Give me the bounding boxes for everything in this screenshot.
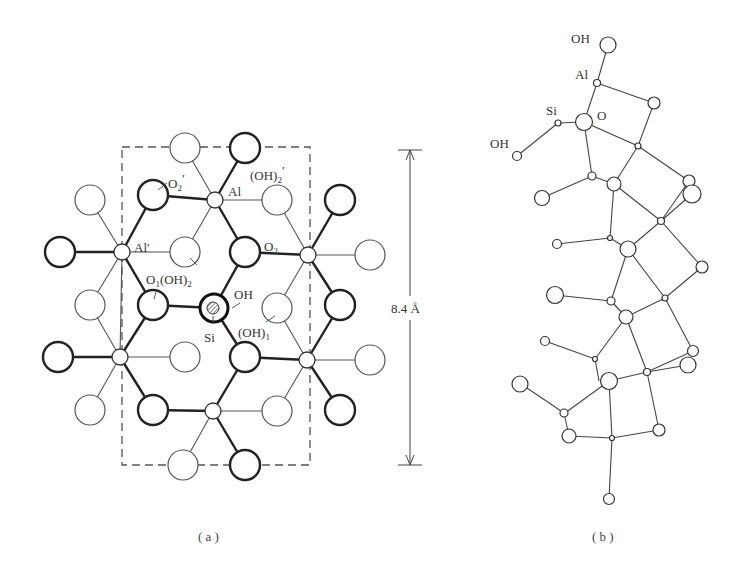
label-b-si: Si xyxy=(546,103,557,118)
panel-b: OH Al Si O OH ( b ) xyxy=(490,31,708,544)
label-oh2-prime: (OH)2′ xyxy=(250,163,285,185)
label-al-prime: Al′ xyxy=(134,240,150,255)
label-o2: O2 xyxy=(264,239,278,256)
dimension-label: 8.4 Å xyxy=(391,301,421,316)
label-si: Si xyxy=(204,330,215,345)
label-b-o: O xyxy=(597,108,606,123)
label-o2-prime: O2′ xyxy=(168,171,185,193)
label-b-al: Al xyxy=(575,67,588,82)
panel-a: O2′ Al (OH)2′ Al′ O2 O1(OH)2 OH Si (OH)1… xyxy=(43,133,422,544)
label-al: Al xyxy=(228,184,241,199)
label-b-oh-top: OH xyxy=(571,31,590,46)
label-o1-oh2: O1(OH)2 xyxy=(146,272,192,289)
label-b-oh-left: OH xyxy=(490,136,509,151)
panel-b-atoms xyxy=(512,37,708,505)
caption-a: ( a ) xyxy=(198,529,219,544)
kaolinite-structure-figure: O2′ Al (OH)2′ Al′ O2 O1(OH)2 OH Si (OH)1… xyxy=(0,0,742,576)
si-atom xyxy=(200,294,228,322)
caption-b: ( b ) xyxy=(592,529,614,544)
label-oh1: (OH)1 xyxy=(238,325,270,342)
panel-b-bonds xyxy=(517,45,702,499)
label-oh: OH xyxy=(234,287,253,302)
panel-b-labels: OH Al Si O OH xyxy=(490,31,606,151)
